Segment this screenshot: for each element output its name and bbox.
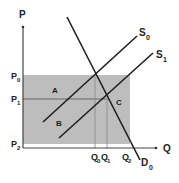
p2-label: P 2 — [11, 139, 21, 151]
svg-text:2: 2 — [128, 158, 132, 164]
quantity-axis-arrow-icon — [155, 147, 158, 150]
supply-demand-diagram: P Q P 0 P 1 P 2 Q 0 Q 1 Q 2 S 0 S 1 D 0 … — [0, 0, 179, 183]
q2-label: Q 2 — [122, 152, 132, 164]
svg-text:2: 2 — [17, 145, 21, 151]
q1-label: Q 1 — [101, 152, 111, 164]
s1-label: S 1 — [156, 49, 167, 63]
quantity-axis-label: Q — [163, 143, 171, 154]
d0-label: D 0 — [141, 157, 153, 171]
region-a-label: A — [52, 86, 58, 95]
price-axis-arrow-icon — [22, 26, 25, 29]
svg-text:1: 1 — [163, 56, 167, 63]
q0-label: Q 0 — [91, 152, 101, 164]
region-b-label: B — [56, 119, 62, 128]
svg-text:0: 0 — [17, 77, 21, 83]
svg-text:1: 1 — [107, 158, 111, 164]
svg-text:D: D — [141, 157, 148, 168]
svg-text:S: S — [139, 27, 146, 38]
s0-label: S 0 — [139, 27, 150, 41]
svg-text:1: 1 — [17, 100, 21, 106]
svg-text:0: 0 — [146, 34, 150, 41]
p0-label: P 0 — [11, 71, 21, 83]
p1-label: P 1 — [11, 94, 21, 106]
region-c-label: C — [116, 98, 122, 107]
price-axis-label: P — [19, 9, 26, 20]
svg-text:S: S — [156, 49, 163, 60]
svg-text:0: 0 — [149, 164, 153, 171]
